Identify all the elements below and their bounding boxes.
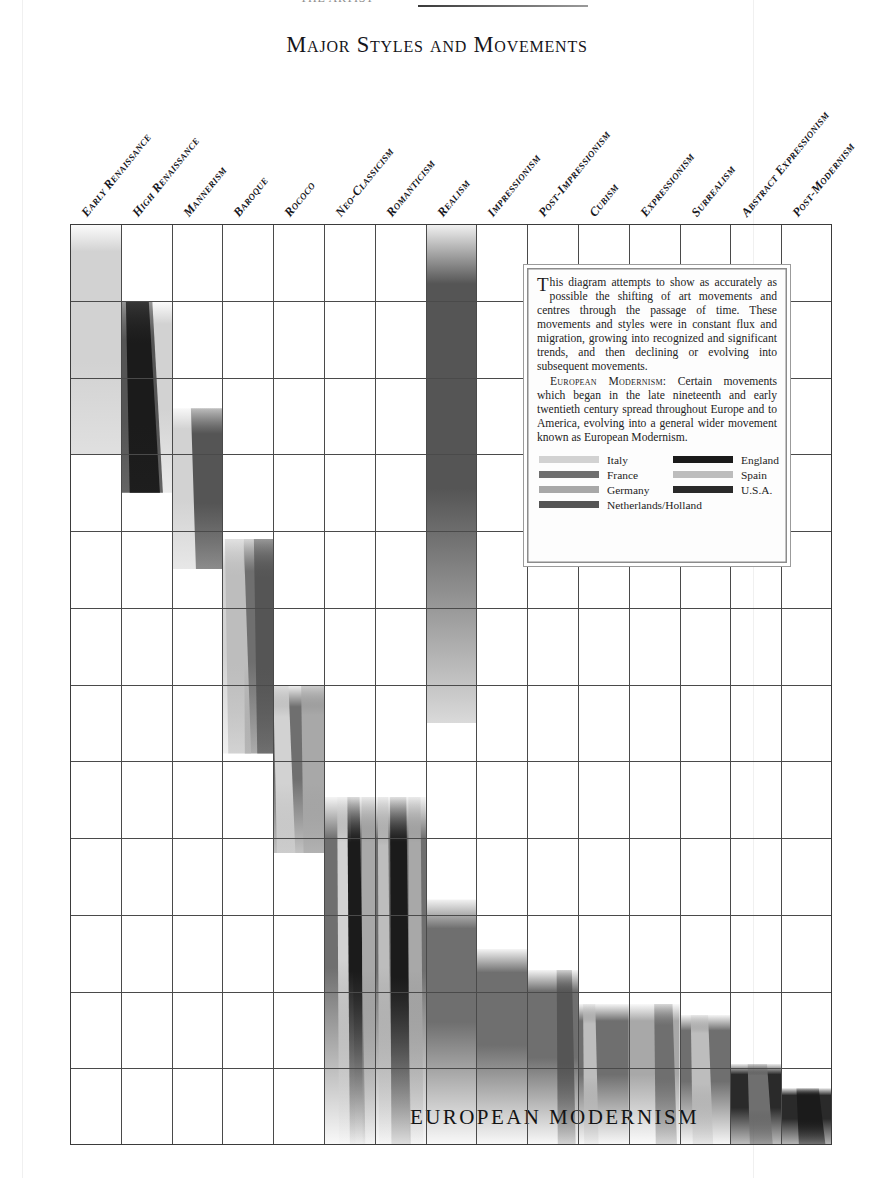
legend-label: Italy — [607, 454, 628, 466]
legend-swatch — [539, 456, 599, 463]
column-header-cubism: Cubism — [586, 180, 622, 220]
movement-bar — [781, 1088, 832, 1145]
drop-cap: T — [537, 276, 550, 292]
legend-row-england: England — [673, 452, 779, 467]
legend-row-italy: Italy — [539, 452, 649, 467]
legend-swatch — [539, 501, 599, 508]
legend-label: Spain — [741, 469, 767, 481]
movement-bar — [172, 408, 223, 569]
column-header-surrealism: Surrealism — [688, 162, 739, 220]
legend-label: U.S.A. — [741, 484, 772, 496]
info-box-inner: This diagram attempts to show as accurat… — [537, 276, 777, 557]
grid-hline — [70, 608, 832, 609]
movement-bar — [730, 1064, 781, 1145]
grid-hline — [70, 761, 832, 762]
info-paragraph-1-text: his diagram attempts to show as accurate… — [537, 276, 777, 373]
movement-bar — [222, 539, 273, 754]
movement-bar — [121, 301, 172, 493]
grid-hline — [70, 915, 832, 916]
movement-bar — [70, 224, 121, 454]
movement-bar — [375, 797, 426, 1145]
column-header-realism: Realism — [434, 176, 473, 220]
legend-row-spain: Spain — [673, 467, 779, 482]
legend-label: France — [607, 469, 638, 481]
legend-row-france: France — [539, 467, 649, 482]
column-header-romanticism: Romanticism — [383, 157, 438, 220]
legend-row-germany: Germany — [539, 482, 649, 497]
european-modernism-label: EUROPEAN MODERNISM — [410, 1105, 699, 1130]
country-stripe — [426, 224, 477, 723]
info-paragraph-1: This diagram attempts to show as accurat… — [537, 276, 777, 374]
page-fold-left — [22, 0, 23, 1178]
info-paragraph-2: European Modernism: Certain movements wh… — [537, 375, 777, 445]
movement-bar — [324, 797, 375, 1145]
grid-hline — [70, 992, 832, 993]
movement-bar — [273, 685, 324, 854]
grid-hline — [70, 838, 832, 839]
page-canvas: THE ARTIST Major Styles and Movements Ea… — [0, 0, 874, 1178]
legend-swatch — [539, 471, 599, 478]
column-header-abstract-expressionism: Abstract Expressionism — [739, 108, 833, 220]
legend-swatch — [539, 486, 599, 493]
legend-column-left: ItalyFranceGermany — [539, 452, 649, 497]
country-legend: ItalyFranceGermany EnglandSpainU.S.A. Ne… — [537, 452, 777, 514]
legend-swatch — [673, 456, 733, 463]
country-stripe — [70, 224, 121, 454]
column-header-mannerism: Mannerism — [180, 163, 230, 220]
movement-bar — [426, 224, 477, 723]
legend-row-u-s-a-: U.S.A. — [673, 482, 779, 497]
legend-column-right: EnglandSpainU.S.A. — [673, 452, 779, 497]
grid-hline — [70, 1068, 832, 1069]
legend-row-netherlands: Netherlands/Holland — [539, 497, 702, 512]
grid-hline — [70, 685, 832, 686]
european-modernism-lead: European Modernism: — [550, 375, 666, 388]
legend-label: England — [741, 454, 779, 466]
column-header-rococo: Rococo — [282, 178, 320, 220]
legend-label: Netherlands/Holland — [607, 499, 702, 511]
info-legend-box: This diagram attempts to show as accurat… — [523, 264, 791, 567]
legend-swatch — [673, 471, 733, 478]
column-header-baroque: Baroque — [231, 174, 273, 220]
legend-swatch — [673, 486, 733, 493]
legend-label: Germany — [607, 484, 649, 496]
column-header-group: Early RenaissanceHigh RenaissanceManneri… — [70, 0, 860, 224]
